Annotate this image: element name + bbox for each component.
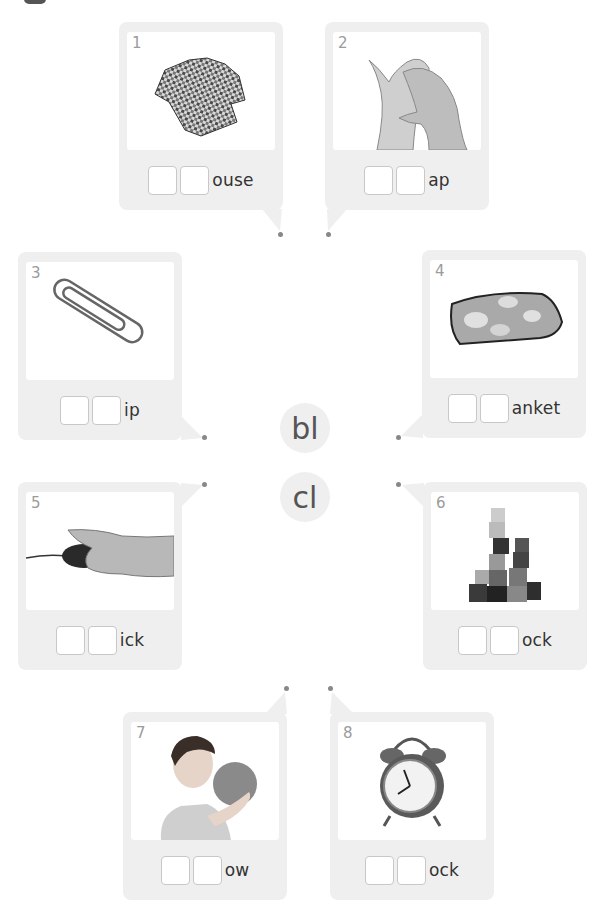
pointer-tail (400, 483, 424, 507)
item-number: 6 (436, 494, 446, 512)
letter-box-1[interactable] (161, 856, 190, 885)
item-number: 7 (136, 724, 146, 742)
picture-blocks: 6 (431, 492, 579, 610)
word-card-6: 6 ock (423, 482, 587, 670)
connector-dot[interactable] (326, 232, 331, 237)
pointer-tail (399, 414, 423, 438)
word-card-5: 5 ick (18, 482, 182, 670)
word-ending: ick (120, 630, 145, 650)
word-card-7: 7 ow (123, 712, 287, 900)
letter-box-2[interactable] (180, 166, 209, 195)
letter-box-2[interactable] (193, 856, 222, 885)
item-number: 3 (31, 264, 41, 282)
word-card-2: 2 ap (325, 22, 489, 210)
pointer-tail (181, 483, 205, 507)
letter-box-1[interactable] (56, 626, 85, 655)
blend-cl[interactable]: cl (280, 472, 330, 522)
connector-dot[interactable] (396, 482, 401, 487)
letter-box-2[interactable] (397, 856, 426, 885)
blend-bl[interactable]: bl (280, 403, 330, 453)
pointer-tail (262, 209, 284, 233)
letter-box-1[interactable] (458, 626, 487, 655)
connector-dot[interactable] (396, 435, 401, 440)
word-card-8: 8 ock (330, 712, 494, 900)
letter-box-2[interactable] (396, 166, 425, 195)
letter-box-1[interactable] (60, 396, 89, 425)
connector-dot[interactable] (284, 686, 289, 691)
item-number: 2 (338, 34, 348, 52)
section-marker (24, 0, 46, 4)
connector-dot[interactable] (328, 686, 333, 691)
letter-box-2[interactable] (88, 626, 117, 655)
item-number: 8 (343, 724, 353, 742)
picture-clapping-hands: 2 (333, 32, 481, 150)
letter-box-2[interactable] (490, 626, 519, 655)
item-number: 4 (435, 262, 445, 280)
word-card-4: 4 anket (422, 250, 586, 438)
word-ending: ip (124, 400, 140, 420)
word-ending: ock (429, 860, 459, 880)
letter-box-1[interactable] (364, 166, 393, 195)
letter-box-1[interactable] (448, 394, 477, 423)
picture-shirt: 1 (127, 32, 275, 150)
picture-blanket: 4 (430, 260, 578, 378)
pointer-tail (325, 209, 349, 233)
word-ending: ow (225, 860, 250, 880)
letter-box-1[interactable] (365, 856, 394, 885)
picture-boy-blowing-balloon: 7 (131, 722, 279, 840)
item-number: 1 (132, 34, 142, 52)
letter-box-1[interactable] (148, 166, 177, 195)
connector-dot[interactable] (202, 435, 207, 440)
connector-dot[interactable] (202, 482, 207, 487)
pointer-tail (330, 690, 354, 714)
pointer-tail (265, 690, 289, 714)
word-card-3: 3 ip (18, 252, 182, 440)
word-card-1: 1 ouse (119, 22, 283, 210)
picture-paper-clip: 3 (26, 262, 174, 380)
picture-alarm-clock: 8 (338, 722, 486, 840)
picture-mouse-click: 5 (26, 492, 174, 610)
word-ending: ock (522, 630, 552, 650)
item-number: 5 (31, 494, 41, 512)
word-ending: anket (512, 398, 561, 418)
word-ending: ap (428, 170, 450, 190)
connector-dot[interactable] (278, 232, 283, 237)
letter-box-2[interactable] (92, 396, 121, 425)
letter-box-2[interactable] (480, 394, 509, 423)
word-ending: ouse (212, 170, 253, 190)
